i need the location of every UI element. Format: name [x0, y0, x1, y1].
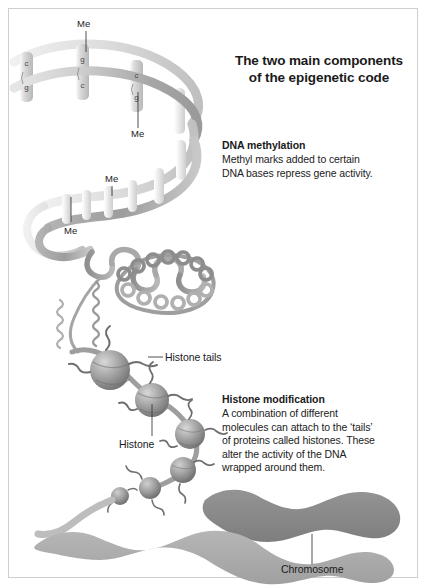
rung [82, 190, 91, 220]
histone-bead [139, 477, 161, 499]
coil-seg [87, 252, 112, 277]
histone-modification-heading: Histone modification [222, 392, 422, 406]
bp-letter: c [135, 71, 139, 80]
rung [154, 168, 164, 204]
histone-tail [119, 403, 137, 411]
bp-letter: g [80, 55, 84, 64]
histone-tail [149, 362, 153, 383]
chromatid-light [34, 531, 394, 585]
diagram-artwork: c g g c c g [0, 0, 428, 588]
dna-methylation-body-line: DNA bases repress gene activity. [222, 167, 422, 181]
histone-tail [106, 326, 110, 350]
coil-beads-lower [122, 284, 212, 309]
histone-modification-body-line: A combination of different [222, 407, 422, 421]
histone-bead [90, 350, 130, 390]
histone-modification-body-line: alter the activity of the DNA [222, 448, 422, 462]
rung [176, 140, 186, 180]
title-line-2: of the epigenetic code [219, 69, 419, 86]
histone-tail [160, 440, 177, 447]
coil-bead [138, 292, 150, 304]
histone-tail [188, 400, 192, 419]
coil-helix-thread [93, 282, 99, 346]
callout-histone-tails: Histone tails [165, 351, 222, 363]
chromatin-fibre [38, 500, 112, 535]
chromatin-coil [57, 250, 214, 352]
methyl-label-3: Me [105, 173, 118, 184]
dna-methylation-heading: DNA methylation [222, 138, 422, 152]
histone-tail [168, 395, 192, 400]
histone-modification-section: Histone modification A combination of di… [222, 392, 422, 475]
helix-strand-back-1 [14, 44, 199, 124]
callout-chromosome: Chromosome [281, 563, 344, 575]
histone-modification-body: A combination of different molecules can… [222, 407, 422, 475]
histone-bead [170, 457, 196, 483]
rung [128, 180, 137, 212]
histone-tail [152, 500, 164, 515]
histone-modification-body-line: wrapped around them. [222, 461, 422, 475]
dna-methylation-body-line: Methyl marks added to certain [222, 153, 422, 167]
histone-bead [175, 419, 205, 449]
helix-strand-front-1 [14, 71, 198, 140]
coil-helix-thread [57, 300, 63, 348]
callout-histone: Histone [119, 438, 154, 450]
dna-methylation-section: DNA methylation Methyl marks added to ce… [222, 138, 422, 180]
dna-methylation-body: Methyl marks added to certain DNA bases … [222, 153, 422, 180]
bp-letter: c [25, 59, 29, 68]
coil-bead [122, 284, 134, 296]
methyl-label-2: Me [131, 128, 144, 139]
chromosome [34, 490, 400, 585]
histone-tail [179, 484, 186, 503]
histone-modification-body-line: of proteins called histones. These [222, 434, 422, 448]
coil-bead [188, 293, 200, 305]
histone-tail [194, 461, 214, 466]
coil-bead [172, 297, 184, 309]
histone-modification-body-line: molecules can attach to the ‘tails’ [222, 421, 422, 435]
methyl-label-4: Me [64, 225, 77, 236]
title-line-1: The two main components [219, 52, 419, 69]
methyl-label-1: Me [77, 18, 90, 29]
rung [62, 194, 71, 224]
bp-letter: c [81, 81, 85, 90]
histone-tail [69, 364, 90, 373]
epigenetic-code-figure: c g g c c g [0, 0, 428, 588]
coil-bead [155, 296, 167, 308]
bp-letter: g [24, 83, 28, 92]
dna-helix: c g g c c g [14, 31, 199, 257]
page-title: The two main components of the epigeneti… [219, 52, 419, 86]
histone-tail [126, 466, 142, 479]
histone-tail [128, 489, 137, 491]
